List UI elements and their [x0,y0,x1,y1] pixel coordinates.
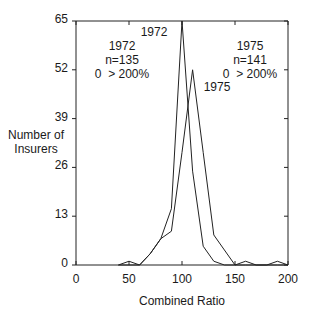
y-tick-0: 0 [38,256,68,270]
x-tick-150: 150 [220,272,250,286]
y-tick-65: 65 [38,12,68,26]
legend-1972-n: n=135 [84,53,160,67]
x-tick-0: 0 [61,272,91,286]
x-tick-50: 50 [114,272,144,286]
peak-label-1975: 1975 [199,80,235,94]
legend-1975-range: 0 > 200% [212,67,288,81]
x-axis-label: Combined Ratio [130,294,234,308]
series-1975 [118,70,288,265]
y-axis-label-line2: Insurers [4,142,68,156]
x-tick-100: 100 [167,272,197,286]
y-tick-13: 13 [38,207,68,221]
y-axis-label-line1: Number of [4,128,68,142]
x-tick-200: 200 [273,272,303,286]
peak-label-1972: 1972 [136,25,172,39]
y-tick-39: 39 [38,110,68,124]
legend-1972-range: 0 > 200% [84,67,160,81]
legend-box-1975: 1975 n=141 0 > 200% [212,39,288,81]
legend-1975-year: 1975 [212,39,288,53]
legend-1972-year: 1972 [84,39,160,53]
legend-box-1972: 1972 n=135 0 > 200% [84,39,160,81]
y-axis-label: Number of Insurers [4,128,68,156]
y-tick-52: 52 [38,61,68,75]
legend-1975-n: n=141 [212,53,288,67]
y-tick-26: 26 [38,158,68,172]
